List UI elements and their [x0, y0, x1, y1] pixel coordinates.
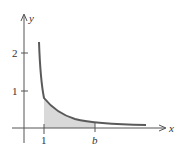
x-axis-label: x: [168, 122, 174, 134]
shaded-area: [44, 98, 95, 128]
y-tick-label-2: 2: [12, 47, 18, 59]
x-tick-label-b: b: [92, 134, 98, 146]
y-axis-label: y: [28, 12, 34, 24]
x-tick-label-1: 1: [41, 134, 47, 146]
y-tick-label-1: 1: [12, 85, 18, 97]
graph: y x 2 1 1 b: [0, 0, 184, 150]
